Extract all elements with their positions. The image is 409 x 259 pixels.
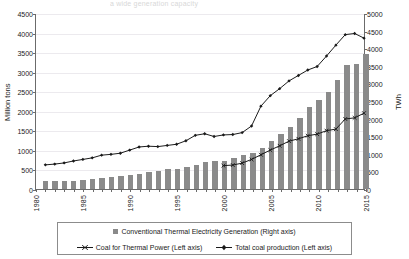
x-tick-mark [74,189,75,192]
data-point-marker [259,153,263,157]
right-tick-label: 4000 [367,46,383,53]
x-tick-label: 1990 [127,195,134,211]
right-tick-label: 1000 [367,151,383,158]
data-point-marker [353,32,356,35]
right-tick-mark [364,14,367,15]
right-tick-label: 2500 [367,99,383,106]
x-tick-mark [55,189,56,192]
line-diamond-marker-icon [216,244,232,251]
x-tick-label: 1995 [174,195,181,211]
x-tick-mark [243,189,244,192]
legend-item-coal-thermal: Coal for Thermal Power (Left axis) [77,244,202,251]
x-tick-mark [149,189,150,192]
left-tick-label: 3500 [17,50,33,57]
right-tick-label: 4500 [367,28,383,35]
right-tick-mark [364,49,367,50]
data-point-marker [137,145,140,148]
x-tick-mark [215,189,216,192]
x-tick-mark [196,189,197,192]
x-tick-mark [83,189,84,192]
x-tick-mark [309,189,310,192]
right-tick-label: 2000 [367,116,383,123]
data-point-marker [81,158,84,161]
left-tick-label: 1000 [17,147,33,154]
bar-swatch-icon [113,229,118,234]
right-tick-label: 5000 [367,11,383,18]
x-tick-mark [272,189,273,192]
data-point-marker [362,36,365,39]
x-tick-mark [36,189,37,192]
right-tick-label: 1500 [367,134,383,141]
left-axis-title: Million tons [2,14,13,190]
right-tick-label: 3000 [367,81,383,88]
line-x-marker-icon [77,244,93,251]
plot-area: 050010001500200025003000350040004500 050… [35,14,365,190]
right-tick-label: 3500 [367,63,383,70]
data-point-marker [91,156,94,159]
left-tick-label: 4500 [17,11,33,18]
x-tick-mark [187,189,188,192]
left-tick-label: 1500 [17,128,33,135]
x-tick-mark [281,189,282,192]
x-tick-mark [366,189,367,192]
x-tick-label: 1985 [80,195,87,211]
x-tick-mark [206,189,207,192]
data-point-marker [109,153,112,156]
x-tick-mark [225,189,226,192]
x-tick-mark [130,189,131,192]
x-tick-label: 2000 [221,195,228,211]
x-tick-mark [338,189,339,192]
right-axis-title: TWh [393,14,404,190]
legend-item-bars: Conventional Thermal Electricity Generat… [113,228,295,235]
x-tick-mark [347,189,348,192]
legend-label-total-coal: Total coal production (Left axis) [235,244,332,251]
legend-label-bars: Conventional Thermal Electricity Generat… [121,228,295,235]
x-tick-mark [319,189,320,192]
left-tick-label: 2500 [17,89,33,96]
data-point-marker [156,145,159,148]
legend-row-1: Conventional Thermal Electricity Generat… [58,223,351,239]
data-point-marker [72,159,75,162]
clipped-title-text: a wide generation capacity [110,0,400,9]
x-tick-mark [357,189,358,192]
data-point-marker [100,153,103,156]
x-tick-mark [253,189,254,192]
data-point-marker [53,162,56,165]
left-tick-label: 2000 [17,108,33,115]
x-tick-mark [328,189,329,192]
x-tick-mark [64,189,65,192]
x-tick-mark [300,189,301,192]
line-path [223,113,364,165]
right-tick-label: 500 [367,169,379,176]
x-tick-mark [177,189,178,192]
data-point-marker [128,148,131,151]
line-path [45,33,364,164]
data-point-marker [62,161,65,164]
data-point-marker [268,148,272,152]
data-point-marker [203,132,206,135]
x-tick-mark [262,189,263,192]
bar [363,54,368,189]
x-tick-mark [168,189,169,192]
data-point-marker [166,144,169,147]
x-tick-mark [45,189,46,192]
legend-label-coal-thermal: Coal for Thermal Power (Left axis) [96,244,202,251]
x-tick-mark [159,189,160,192]
x-tick-mark [140,189,141,192]
data-point-marker [44,163,47,166]
data-point-marker [278,144,282,148]
right-tick-mark [364,32,367,33]
x-tick-label: 1980 [33,195,40,211]
line-series [36,14,364,189]
data-point-marker [222,133,225,136]
x-tick-label: 2010 [315,195,322,211]
data-point-marker [119,152,122,155]
x-tick-label: 2015 [363,195,370,211]
chart-legend: Conventional Thermal Electricity Generat… [57,222,352,255]
x-tick-label: 2005 [268,195,275,211]
chart-figure: a wide generation capacity Million tons … [0,0,409,259]
left-tick-label: 3000 [17,69,33,76]
left-tick-label: 500 [21,167,33,174]
left-tick-label: 4000 [17,30,33,37]
x-tick-mark [102,189,103,192]
